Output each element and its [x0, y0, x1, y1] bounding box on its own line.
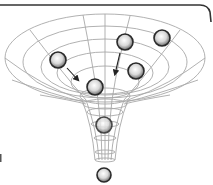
left-edge-mark	[0, 154, 2, 162]
sphere-center	[87, 79, 103, 95]
sphere-upper-right	[154, 30, 170, 46]
sphere-upper-left	[50, 52, 66, 68]
sphere-below-funnel	[97, 168, 111, 182]
spheres	[50, 30, 170, 182]
funnel-grid	[5, 14, 205, 162]
gravity-well-diagram	[0, 0, 213, 185]
arrow-left	[67, 68, 78, 80]
sphere-upper-mid	[117, 34, 133, 50]
sphere-in-throat	[96, 117, 112, 133]
frame-border	[0, 5, 211, 22]
sphere-mid-right	[128, 63, 144, 79]
